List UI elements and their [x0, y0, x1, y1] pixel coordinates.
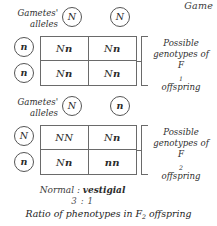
punnett-square-figure: Game Gametes' alleles N N n n Nn Nn Nn N… [0, 0, 217, 226]
top-allele-circle-f2-2: n [110, 96, 130, 116]
caption-line1: Possible [145, 38, 217, 49]
gametes-label-line1: Gametes' [17, 8, 58, 18]
gametes-label-line1: Gametes' [17, 97, 58, 107]
punnett-grid-f1: Nn Nn Nn Nn [40, 36, 137, 86]
punnett-cell: Nn [41, 61, 89, 85]
gametes-label-line2: alleles [2, 19, 58, 30]
top-allele-circle-f1-1: N [62, 7, 82, 27]
punnett-cell: Nn [89, 61, 137, 85]
phenotype-ratio-names: Normal : vestigial [0, 185, 191, 195]
brace-tick-f2 [137, 150, 141, 151]
allele-letter: n [21, 42, 28, 52]
phenotype-dominant: Normal [40, 185, 74, 195]
allele-letter: N [116, 12, 124, 22]
punnett-grid-f2: NN Nn Nn nn [40, 125, 137, 175]
caption-line3: F2 offspring [145, 149, 217, 182]
side-allele-circle-f1-2: n [14, 63, 34, 83]
caption-f2-genotypes: Possible genotypes of F2 offspring [145, 127, 217, 182]
punnett-cell: nn [89, 150, 137, 174]
allele-letter: N [20, 131, 28, 141]
phenotype-ratio-numbers: 3 : 1 [0, 196, 191, 206]
punnett-cell: NN [41, 126, 89, 150]
allele-letter: n [21, 157, 28, 167]
punnett-cell: Nn [89, 37, 137, 61]
top-allele-circle-f1-2: N [110, 7, 130, 27]
allele-letter: n [117, 101, 124, 111]
corner-label: Game [184, 0, 213, 11]
allele-letter: n [21, 68, 28, 78]
allele-letter: N [68, 101, 76, 111]
caption-f1-genotypes: Possible genotypes of F1 offspring [145, 38, 217, 93]
brace-tick-f1 [137, 61, 141, 62]
punnett-cell: Nn [89, 126, 137, 150]
phenotype-recessive: vestigial [83, 185, 126, 195]
side-allele-circle-f2-1: N [14, 126, 34, 146]
gametes-label-line2: alleles [2, 108, 58, 119]
punnett-cell: Nn [41, 150, 89, 174]
side-allele-circle-f2-2: n [14, 152, 34, 172]
caption-line1: Possible [145, 127, 217, 138]
gametes-alleles-label-f1: Gametes' alleles [2, 8, 58, 29]
top-allele-circle-f2-1: N [62, 96, 82, 116]
punnett-cell: Nn [41, 37, 89, 61]
ratio-caption: Ratio of phenotypes in F2 offspring [0, 208, 217, 219]
allele-letter: N [68, 12, 76, 22]
caption-line2: genotypes of [145, 138, 217, 149]
caption-line2: genotypes of [145, 49, 217, 60]
side-allele-circle-f1-1: n [14, 37, 34, 57]
ratio-separator: : [74, 185, 83, 195]
caption-line3: F1 offspring [145, 60, 217, 93]
gametes-alleles-label-f2: Gametes' alleles [2, 97, 58, 118]
